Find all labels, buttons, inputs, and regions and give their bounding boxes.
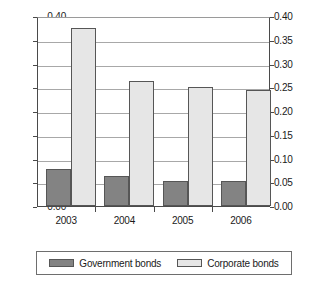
y-axis-right-tick-label: 0.20 — [274, 107, 306, 117]
y-axis-right-tick-label: 0.00 — [274, 202, 306, 212]
x-axis-tick-label-2004: 2004 — [95, 215, 153, 227]
legend-item-corporate-bonds: Corporate bonds — [177, 258, 279, 269]
y-axis-right-tick-label: 0.35 — [274, 36, 306, 46]
y-axis-right-tick-label: 0.40 — [274, 12, 306, 22]
bar-government-bonds-2005 — [163, 181, 188, 206]
y-axis-right-tick-label: 0.30 — [274, 60, 306, 70]
x-axis-tick-label-2005: 2005 — [154, 215, 212, 227]
bar-group-2004 — [96, 18, 154, 206]
bar-government-bonds-2003 — [46, 169, 71, 206]
bar-corporate-bonds-2005 — [188, 87, 213, 206]
bar-chart-figure: 0.400.350.300.250.200.150.100.050.00 0.4… — [0, 0, 326, 286]
y-axis-right-tick-label: 0.15 — [274, 131, 306, 141]
legend-swatch-government-bonds — [49, 259, 74, 267]
y-axis-right-tick-label: 0.05 — [274, 178, 306, 188]
bar-government-bonds-2004 — [104, 176, 129, 206]
bar-corporate-bonds-2003 — [71, 28, 96, 206]
legend-label-government-bonds: Government bonds — [79, 258, 161, 269]
bar-group-2003 — [38, 18, 96, 206]
bar-group-2006 — [213, 18, 271, 206]
bar-government-bonds-2006 — [221, 181, 246, 206]
x-axis-tick-mark — [154, 207, 155, 212]
x-axis-tick-label-2003: 2003 — [37, 215, 95, 227]
y-axis-left-tick-mark — [33, 207, 37, 208]
bar-group-2005 — [155, 18, 213, 206]
legend-label-corporate-bonds: Corporate bonds — [207, 258, 279, 269]
bar-corporate-bonds-2004 — [129, 81, 154, 206]
legend-swatch-corporate-bonds — [177, 259, 202, 267]
plot-area — [37, 17, 270, 207]
legend-item-government-bonds: Government bonds — [49, 258, 161, 269]
y-axis-right-tick-label: 0.10 — [274, 155, 306, 165]
bar-corporate-bonds-2006 — [246, 90, 271, 206]
y-axis-right-tick-mark — [270, 207, 274, 208]
x-axis-tick-mark — [212, 207, 213, 212]
x-axis-tick-mark — [95, 207, 96, 212]
chart-legend: Government bonds Corporate bonds — [36, 251, 292, 275]
x-axis-tick-label-2006: 2006 — [212, 215, 270, 227]
y-axis-right-tick-label: 0.25 — [274, 83, 306, 93]
